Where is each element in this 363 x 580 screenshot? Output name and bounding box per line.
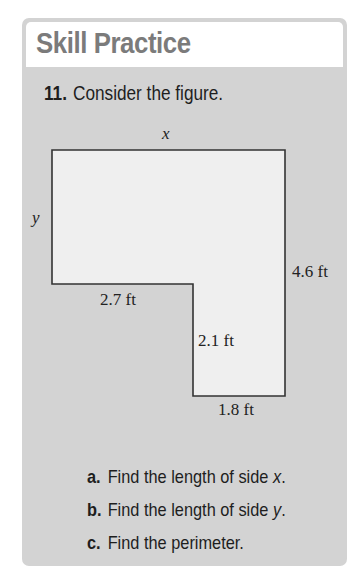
subpart-text-main: Find the length of side	[108, 466, 273, 487]
label-bottom-length: 1.8 ft	[218, 400, 254, 420]
subpart-letter: a.	[87, 460, 108, 493]
subpart-letter: c.	[87, 526, 108, 559]
label-notch-horizontal: 2.7 ft	[100, 290, 136, 310]
subpart-variable: x	[273, 466, 281, 487]
subpart-list: a.Find the length of side x. b.Find the …	[87, 460, 318, 559]
subpart-text-main: Find the length of side	[108, 499, 273, 520]
subpart-variable: y	[273, 499, 281, 520]
skill-practice-panel: Skill Practice 11.Consider the figure. x…	[22, 18, 347, 566]
label-top-x: x	[162, 124, 170, 144]
subpart-letter: b.	[87, 493, 108, 526]
label-left-y: y	[32, 208, 40, 228]
subpart-text: Find the length of side x.	[108, 466, 286, 487]
subpart-text-end: .	[281, 466, 286, 487]
label-right-length: 4.6 ft	[292, 262, 328, 282]
subpart-text-main: Find the perimeter.	[108, 532, 244, 553]
subpart-text: Find the length of side y.	[108, 499, 286, 520]
l-shape-polygon	[52, 150, 285, 396]
subpart-text-end: .	[281, 499, 286, 520]
subpart-c: c.Find the perimeter.	[87, 526, 286, 559]
subpart-b: b.Find the length of side y.	[87, 493, 286, 526]
subpart-a: a.Find the length of side x.	[87, 460, 286, 493]
label-notch-vertical: 2.1 ft	[198, 331, 234, 351]
subpart-text: Find the perimeter.	[108, 532, 244, 553]
